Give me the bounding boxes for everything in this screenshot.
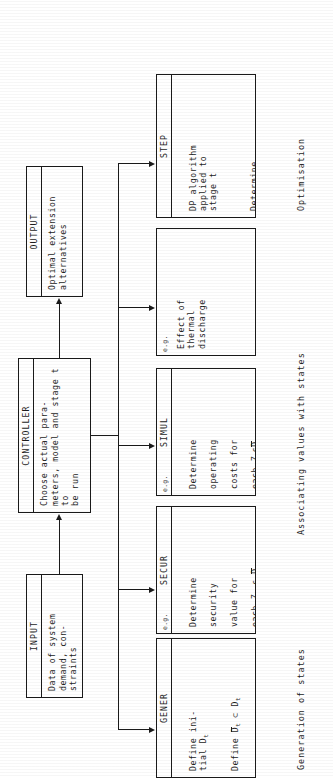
box-gener-para-1: Define ini- tial Dt [188,645,211,771]
box-step-para-2-line-1: Determine [249,81,256,211]
box-output[interactable]: OUTPUT Optimal extension alternatives [26,166,83,297]
connector-bus-trunk [118,164,119,730]
box-secur-line-3: value for [229,513,239,627]
box-secur-line-2: security [208,513,218,627]
box-thermal-eg-label: e.g. [162,335,168,352]
box-secur-line-4: each Zt ϵ Dt [250,513,256,627]
caption-optimisation: Optimisation [297,138,305,211]
box-simul-body: Determine operating costs for each ZtϵDt [172,369,256,495]
connector-controller-output [59,302,60,358]
arrowhead-step [149,161,155,167]
box-controller[interactable]: CONTROLLER Choose actual para- meters, m… [18,358,91,513]
arrowhead-input-controller [56,514,62,520]
box-simul-line-1: Determine [188,375,198,489]
box-simul-line-3: costs for [229,375,239,489]
connector-input-controller [59,518,60,574]
box-output-body: Optimal extension alternatives [42,167,82,296]
box-step-header: STEP [157,75,172,217]
box-secur-eg-label: e.g. [162,613,168,630]
box-controller-body: Choose actual para- meters, model and st… [34,359,90,512]
connector-drop-thermal [118,307,151,308]
caption-generation-of-states: Generation of states [297,648,305,770]
box-secur[interactable]: SECUR e.g. Determine security value for … [156,506,256,634]
caption-associating-values: Associating values with states [297,352,305,535]
box-gener-body: Define ini- tial Dt Define Dt ⊂ Dt Delet… [172,639,256,777]
box-gener-header: GENER [157,639,172,777]
box-controller-header: CONTROLLER [19,359,34,512]
box-simul[interactable]: SIMUL e.g. Determine operating costs for… [156,368,256,496]
box-gener-para-2: Define Dt ⊂ Dt [230,645,243,771]
arrowhead-secur [149,587,155,593]
box-thermal-body: Effect of thermal discharge [171,229,255,355]
connector-drop-secur [118,589,151,590]
box-input-header: INPUT [27,575,42,697]
box-secur-body: Determine security value for each Zt ϵ D… [172,507,256,633]
arrowhead-simul [149,443,155,449]
box-input[interactable]: INPUT Data of system demand, con- strain… [26,574,83,698]
connector-drop-step [118,163,151,164]
connector-drop-gener [118,729,151,730]
box-step-para-2: Determine optimal subpath for each ZtϵDt [238,81,256,211]
box-step-para-1: DP algorithm applied to stage t [188,81,219,211]
box-simul-eg-label: e.g. [162,475,168,492]
box-simul-line-4: each ZtϵDt [250,375,256,489]
box-output-header: OUTPUT [27,167,42,296]
box-step-body: DP algorithm applied to stage t Determin… [172,75,256,217]
connector-controller-bus-stub [91,435,118,436]
box-simul-line-2: operating [208,375,218,489]
box-thermal[interactable]: e.g. Effect of thermal discharge [156,228,256,356]
box-secur-line-1: Determine [188,513,198,627]
box-step[interactable]: STEP DP algorithm applied to stage t Det… [156,74,256,218]
connector-drop-simul [118,445,151,446]
arrowhead-thermal [149,305,155,311]
box-gener[interactable]: GENER Define ini- tial Dt Define Dt ⊂ Dt… [156,638,256,778]
arrowhead-gener [149,727,155,733]
box-input-body: Data of system demand, con- straints [42,575,82,697]
arrowhead-controller-output [56,298,62,304]
